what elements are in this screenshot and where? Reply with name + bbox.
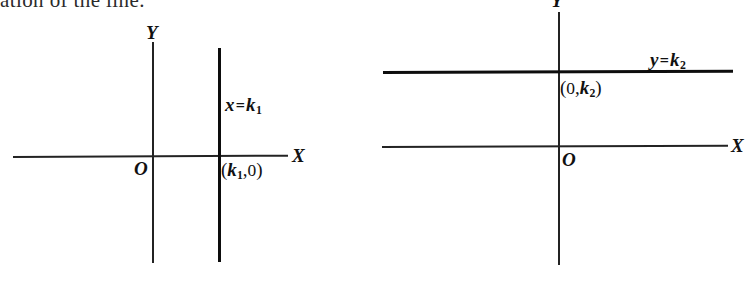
x-axis-label-left: X [292, 146, 305, 165]
origin-label-left: O [134, 159, 148, 178]
point-label-k1-zero: (k1,0) [221, 160, 263, 179]
point-label-zero-k2: (0,k2) [560, 78, 602, 97]
y-axis-left [152, 42, 154, 263]
equation-subscript: 1 [256, 104, 262, 117]
x-axis-left [13, 155, 288, 158]
point-subscript: 2 [590, 87, 596, 100]
point-subscript: 1 [237, 169, 243, 182]
vertical-line-x-equals-k1 [218, 48, 221, 262]
equation-subscript: 2 [680, 59, 686, 72]
equation-variable: x [225, 94, 235, 115]
equation-label-y-equals-k2: y=k2 [650, 50, 686, 69]
equation-label-x-equals-k1: x=k1 [225, 95, 262, 114]
point-zero: 0 [247, 160, 256, 180]
y-axis-label-left: Y [146, 23, 158, 42]
point-zero: 0 [566, 78, 575, 98]
equation-operator: = [659, 52, 670, 69]
point-constant: k [580, 77, 590, 98]
point-constant: k [227, 159, 237, 180]
equation-operator: = [235, 97, 246, 114]
equation-constant: k [670, 49, 680, 70]
scanned-figure-page: ation of the line. Y X O x=k1 (k1,0) [0, 0, 747, 281]
point-close-paren: ) [595, 77, 601, 98]
y-axis-right [558, 12, 560, 265]
point-close-paren: ) [256, 159, 262, 180]
x-axis-right [382, 145, 728, 148]
running-text: ation of the line. [0, 0, 230, 13]
y-axis-label-right: Y [551, 0, 563, 10]
equation-variable: y [650, 49, 659, 70]
x-axis-label-right: X [731, 136, 744, 155]
equation-constant: k [246, 94, 256, 115]
origin-label-right: O [562, 150, 576, 169]
